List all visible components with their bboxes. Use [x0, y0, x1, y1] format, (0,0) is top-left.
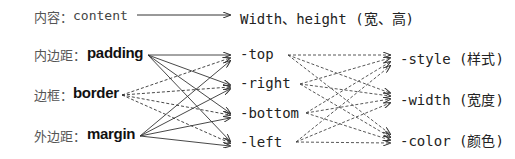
- side-property-arrows: [288, 55, 390, 143]
- border-arrows: [122, 58, 230, 143]
- arrows: [0, 0, 515, 159]
- padding-arrows: [148, 55, 230, 141]
